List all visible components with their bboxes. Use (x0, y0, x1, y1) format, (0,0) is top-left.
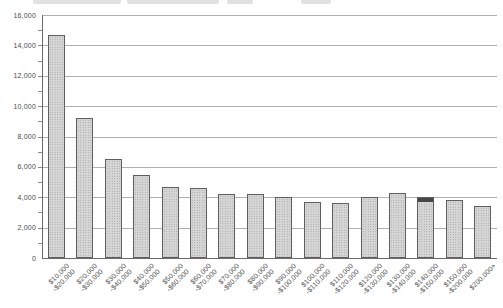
cropped-title-fragment (301, 0, 331, 4)
gridline (42, 106, 497, 107)
bar-$50,000-$60,000 (162, 187, 179, 258)
x-tick-label: $40,000-$50,000 (130, 262, 161, 293)
y-tick-label: 4,000 (0, 194, 36, 201)
x-tick-label: $50,000-$60,000 (159, 262, 190, 293)
bar-$200,000+ (474, 206, 491, 258)
y-tick-label: 14,000 (0, 42, 36, 49)
y-tick-label: 10,000 (0, 103, 36, 110)
bar-$20,000-$30,000 (76, 118, 93, 258)
x-tick-label: $140,000-$150,000 (412, 262, 446, 296)
cropped-title-fragment (227, 0, 253, 4)
bar-$140,000-$150,000 (417, 197, 434, 258)
bar-$70,000-$80,000 (218, 194, 235, 259)
y-tick-label: 16,000 (0, 12, 36, 19)
y-tick-label: 2,000 (0, 224, 36, 231)
x-tick-label: $20,000-$30,000 (74, 262, 105, 293)
y-axis-line (42, 15, 43, 258)
y-tick-label: 8,000 (0, 133, 36, 140)
bar-$30,000-$40,000 (105, 159, 122, 258)
x-tick-label: $30,000-$40,000 (102, 262, 133, 293)
bar-$80,000-$90,000 (247, 194, 264, 259)
bar-$90,000-$100,000 (275, 197, 292, 258)
x-tick-label: $110,000-$120,000 (327, 262, 361, 296)
x-tick-label: $100,000-$110,000 (299, 262, 332, 295)
cropped-title-fragment (33, 0, 121, 4)
gridline (42, 137, 497, 138)
x-tick-label: $200,000+ (468, 262, 498, 292)
x-tick-label: $90,000-$100,000 (270, 262, 304, 296)
x-tick-label: $150,000-$200,000 (440, 262, 474, 296)
bar-$60,000-$70,000 (190, 188, 207, 258)
x-tick-label: $120,000-$130,000 (355, 262, 389, 296)
x-tick-label: $130,000-$140,000 (384, 262, 418, 296)
gridline (42, 76, 497, 77)
bar-$100,000-$110,000 (304, 202, 321, 258)
bar-$10,000-$20,000 (48, 35, 65, 258)
gridline (42, 15, 497, 16)
y-tick-label: 6,000 (0, 163, 36, 170)
x-tick-label: $60,000-$70,000 (187, 262, 218, 293)
bar-$110,000-$120,000 (332, 203, 349, 258)
y-tick-label: 0 (0, 255, 36, 262)
gridline (42, 45, 497, 46)
bar-dark-cap (418, 198, 433, 202)
bar-chart-figure: 16,00014,00012,00010,0008,0006,0004,0002… (0, 0, 503, 308)
x-tick-label: $10,000-$20,000 (45, 262, 76, 293)
x-tick-label: $70,000-$80,000 (216, 262, 247, 293)
bar-$130,000-$140,000 (389, 193, 406, 258)
x-axis-line (42, 258, 497, 259)
bar-$40,000-$50,000 (133, 175, 150, 259)
bar-$120,000-$130,000 (361, 197, 378, 259)
y-tick-label: 12,000 (0, 72, 36, 79)
cropped-title-fragment (127, 0, 219, 4)
bar-$150,000-$200,000 (446, 200, 463, 258)
x-tick-label: $80,000-$90,000 (244, 262, 275, 293)
